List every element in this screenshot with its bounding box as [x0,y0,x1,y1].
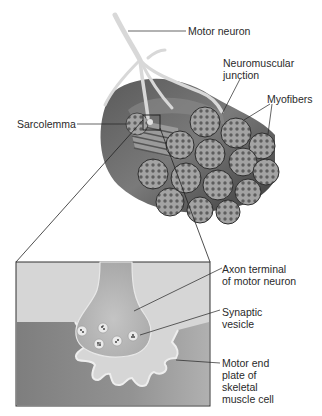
label-line: Axon terminal [222,263,296,275]
inset-detail [16,262,210,406]
label-line: of motor neuron [222,275,296,287]
label-line: Motor end [222,357,274,369]
label-myofibers: Myofibers [267,93,313,105]
muscle-bundle [101,79,279,224]
label-neuromuscular-junction: Neuromuscular junction [223,57,294,81]
label-line: muscle cell [222,393,274,405]
label-line: junction [223,69,294,81]
label-synaptic-vesicle: Synaptic vesicle [222,306,262,330]
label-line: plate of [222,369,274,381]
label-line: Neuromuscular [223,57,294,69]
label-line: Synaptic [222,306,262,318]
label-line: vesicle [222,318,262,330]
label-motor-neuron: Motor neuron [188,25,250,37]
label-motor-end-plate: Motor end plate of skeletal muscle cell [222,357,274,405]
label-sarcolemma: Sarcolemma [17,118,76,130]
label-line: skeletal [222,381,274,393]
label-axon-terminal: Axon terminal of motor neuron [222,263,296,287]
